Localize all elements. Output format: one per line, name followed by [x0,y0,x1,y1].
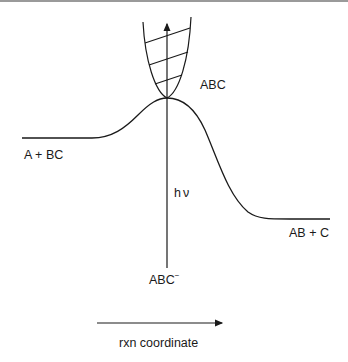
transition-state-label: ABC [200,78,226,92]
anion-label-text: ABC [149,273,175,287]
photon-label: hν [174,186,191,200]
axis-label: rxn coordinate [119,336,198,350]
hatch-line [155,75,182,84]
diagram-canvas [0,0,348,362]
products-label: AB + C [289,226,329,240]
anion-charge: − [175,271,180,280]
reactants-label: A + BC [24,148,63,162]
anion-label: ABC− [149,271,179,287]
potential-energy-curve [22,98,330,219]
hatch-line [149,52,188,65]
